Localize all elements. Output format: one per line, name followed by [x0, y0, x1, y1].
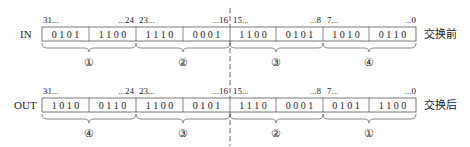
brace-group: [42, 114, 416, 123]
nibble: 0 1 0 1: [286, 29, 314, 40]
nibble: 1 1 0 0: [146, 100, 174, 111]
bit-label: 31...: [43, 15, 59, 25]
row-label-out: OUT: [14, 99, 37, 111]
nibble: 1 0 1 0: [332, 29, 360, 40]
brace-group: [42, 43, 416, 52]
bit-label: ...24: [118, 15, 134, 25]
bit-label: 7...: [327, 15, 338, 25]
nibble: 1 1 1 0: [146, 29, 174, 40]
bit-label: ...0: [405, 15, 417, 25]
bit-label: ...8: [310, 86, 322, 96]
bit-label: 31...: [43, 86, 59, 96]
bit-label: ...16: [212, 15, 228, 25]
nibble: 0 1 0 1: [193, 100, 221, 111]
bit-label: 7...: [327, 86, 338, 96]
bit-label: 23...: [139, 15, 155, 25]
byte-marker: ③: [178, 127, 188, 139]
caption-after: 交换后: [424, 98, 457, 111]
byte-marker: ①: [364, 127, 374, 139]
byte-marker: ①: [84, 56, 94, 68]
byte-marker: ③: [271, 56, 281, 68]
bit-label: ...0: [405, 86, 417, 96]
nibble: 0 0 0 1: [193, 29, 221, 40]
nibble: 1 1 1 0: [239, 100, 267, 111]
nibble: 0 0 0 1: [286, 100, 314, 111]
caption-before: 交换前: [424, 27, 457, 40]
nibble: 1 1 0 0: [99, 29, 127, 40]
row-label-in: IN: [20, 28, 32, 40]
nibble: 1 1 0 0: [239, 29, 267, 40]
row-in: IN 31... ...24 23... ...16 15... ...8 7.…: [20, 15, 457, 68]
nibble: 1 0 1 0: [52, 100, 80, 111]
byte-marker: ④: [364, 56, 374, 68]
bit-label: 15...: [233, 86, 249, 96]
bit-label: 15...: [233, 15, 249, 25]
bit-label: 23...: [139, 86, 155, 96]
byte-marker: ②: [271, 127, 281, 139]
nibble: 0 1 0 1: [332, 100, 360, 111]
byte-swap-diagram: IN 31... ...24 23... ...16 15... ...8 7.…: [0, 0, 470, 147]
byte-marker: ④: [84, 127, 94, 139]
nibble: 1 1 0 0: [379, 100, 407, 111]
row-out: OUT 31... ...24 23... ...16 15... ...8 7…: [14, 86, 457, 139]
nibble: 0 1 1 0: [379, 29, 407, 40]
byte-marker: ②: [178, 56, 188, 68]
bit-label: ...24: [118, 86, 134, 96]
bit-label: ...16: [212, 86, 228, 96]
bit-label: ...8: [310, 15, 322, 25]
nibble: 0 1 1 0: [99, 100, 127, 111]
nibble: 0 1 0 1: [52, 29, 80, 40]
